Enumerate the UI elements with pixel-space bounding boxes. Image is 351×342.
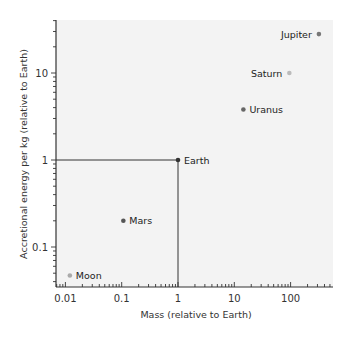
x-tick-label: 0.01 (54, 293, 76, 304)
point-label: Saturn (251, 68, 282, 79)
point-label: Mars (129, 215, 152, 226)
y-tick-label: 10 (35, 68, 48, 79)
point-marker-icon (287, 71, 292, 76)
x-tick-label: 1 (175, 293, 181, 304)
point-label: Uranus (249, 104, 283, 115)
point-marker-icon (68, 273, 73, 278)
y-axis-title: Accretional energy per kg (relative to E… (18, 49, 29, 259)
point-marker-icon (317, 32, 322, 37)
point-label: Earth (184, 155, 209, 166)
point-marker-icon (176, 158, 181, 163)
x-axis-title: Mass (relative to Earth) (140, 309, 251, 320)
plot-background (56, 20, 333, 287)
x-tick-label: 10 (228, 293, 241, 304)
point-label: Jupiter (280, 29, 312, 40)
x-tick-label: 0.1 (114, 293, 130, 304)
scatter-chart: 0.010.1110100 0.1110 MoonMarsEarthUranus… (0, 0, 351, 342)
point-marker-icon (121, 219, 126, 224)
x-tick-label: 100 (281, 293, 300, 304)
y-tick-label: 1 (42, 155, 48, 166)
y-axis-ticks: 0.1110 (32, 21, 56, 282)
point-label: Moon (76, 270, 102, 281)
point-marker-icon (241, 107, 246, 112)
y-tick-label: 0.1 (32, 242, 48, 253)
